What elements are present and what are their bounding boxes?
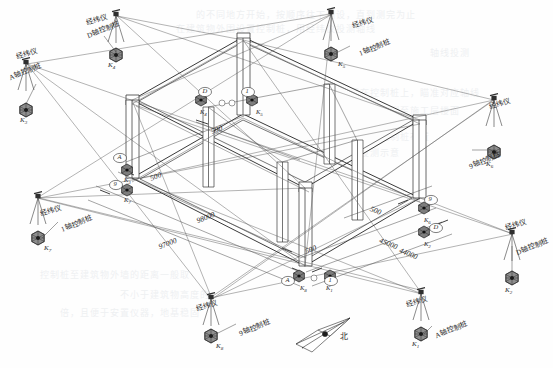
theodolite-icon — [18, 58, 34, 91]
theodolite-icon — [30, 192, 46, 225]
control-pile-icon — [488, 145, 500, 159]
theodolite-icon — [413, 288, 429, 321]
isometric-survey-drawing — [0, 0, 553, 368]
control-pile-icon — [205, 329, 217, 343]
drawing-canvas: 的不同地方开始，按顺序往下测设，直到测完为止在建筑物外围设置控制桩，用经纬仪投测… — [0, 0, 553, 368]
theodolite-icon — [108, 10, 124, 43]
building-frame — [126, 33, 426, 266]
theodolite-icon — [323, 8, 339, 41]
north-arrow-icon — [296, 318, 350, 352]
control-pile-icon — [506, 271, 518, 285]
control-pile-icon — [325, 47, 337, 61]
control-pile-icon — [20, 103, 32, 117]
theodolite-icon — [203, 293, 219, 326]
control-pile-icon — [415, 327, 427, 341]
control-pile-icon — [110, 48, 122, 62]
